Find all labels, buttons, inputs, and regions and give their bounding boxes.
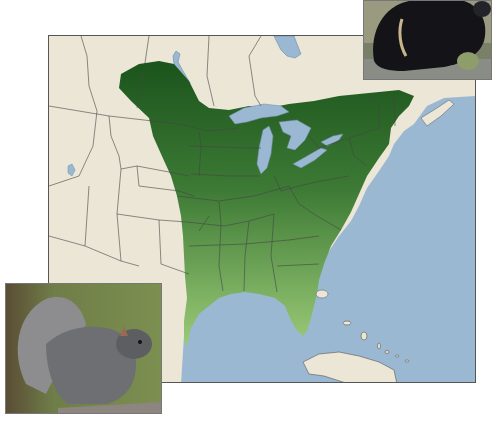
black-squirrel-image — [364, 1, 492, 80]
gray-squirrel-image — [6, 284, 162, 414]
black-squirrel-photo — [363, 0, 492, 80]
everglades — [316, 290, 328, 298]
gray-squirrel-photo — [5, 283, 162, 414]
